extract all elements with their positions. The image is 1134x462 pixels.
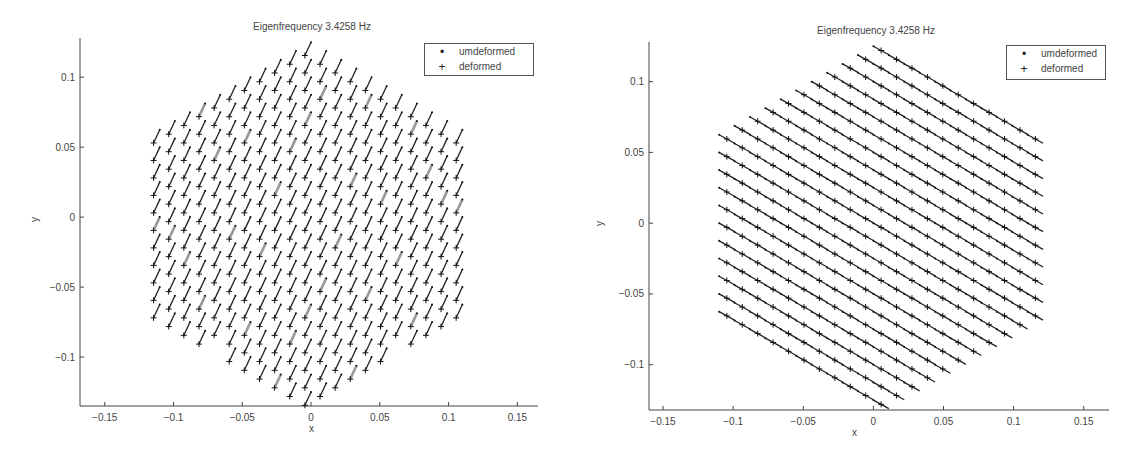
y-tick-label: 0.05 xyxy=(625,147,645,158)
y-tick-label: −0.05 xyxy=(619,288,645,299)
dot-marker-icon: • xyxy=(1007,47,1041,61)
x-tick-label: 0.15 xyxy=(508,412,528,423)
legend-label: deformed xyxy=(1041,63,1087,74)
x-tick-label: −0.15 xyxy=(650,416,676,427)
y-tick-label: −0.05 xyxy=(50,282,76,293)
axes: −0.15−0.1−0.0500.050.10.15−0.1−0.0500.05… xyxy=(619,42,1109,427)
mode-shape-markers xyxy=(718,45,1043,408)
y-tick-label: 0.1 xyxy=(61,72,75,83)
y-tick-label: 0 xyxy=(69,212,75,223)
mode-shape-markers xyxy=(151,41,464,408)
legend-label: umdeformed xyxy=(1041,48,1101,59)
right-legend: • umdeformed + deformed xyxy=(1006,45,1106,80)
x-tick-label: 0 xyxy=(871,416,877,427)
left-figure: −0.15−0.1−0.0500.050.10.15−0.1−0.0500.05… xyxy=(0,0,567,462)
x-tick-label: −0.1 xyxy=(723,416,743,427)
legend-label: deformed xyxy=(459,61,505,72)
right-figure: −0.15−0.1−0.0500.050.10.15−0.1−0.0500.05… xyxy=(567,0,1134,462)
x-tick-label: 0.05 xyxy=(370,412,390,423)
y-tick-label: −0.1 xyxy=(55,352,75,363)
x-tick-label: 0.15 xyxy=(1074,416,1094,427)
x-tick-label: 0.1 xyxy=(1007,416,1021,427)
x-tick-label: 0 xyxy=(308,412,314,423)
legend-label: umdeformed xyxy=(459,46,519,57)
x-tick-label: 0.1 xyxy=(442,412,456,423)
plus-marker-icon: + xyxy=(425,60,459,74)
x-tick-label: −0.15 xyxy=(92,412,118,423)
y-tick-label: 0.1 xyxy=(630,76,644,87)
right-plot-title: Eigenfrequency 3.4258 Hz xyxy=(817,25,935,36)
left-legend: • umdeformed + deformed xyxy=(424,43,534,76)
x-tick-label: 0.05 xyxy=(934,416,954,427)
left-x-axis-label: x xyxy=(309,423,314,434)
legend-entry-deformed: + deformed xyxy=(1007,61,1105,76)
plus-marker-icon: + xyxy=(1007,62,1041,76)
y-tick-label: 0.05 xyxy=(56,142,76,153)
legend-entry-undeformed: • umdeformed xyxy=(425,44,533,59)
dot-marker-icon: • xyxy=(425,45,459,59)
left-plot-title: Eigenfrequency 3.4258 Hz xyxy=(253,21,371,32)
left-y-axis-label: y xyxy=(29,217,40,222)
right-y-axis-label: y xyxy=(594,221,605,226)
x-tick-label: −0.05 xyxy=(791,416,817,427)
right-x-axis-label: x xyxy=(852,427,857,438)
legend-entry-undeformed: • umdeformed xyxy=(1007,46,1105,61)
y-tick-label: 0 xyxy=(638,218,644,229)
legend-entry-deformed: + deformed xyxy=(425,59,533,74)
y-tick-label: −0.1 xyxy=(624,359,644,370)
x-tick-label: −0.1 xyxy=(164,412,184,423)
x-tick-label: −0.05 xyxy=(230,412,256,423)
